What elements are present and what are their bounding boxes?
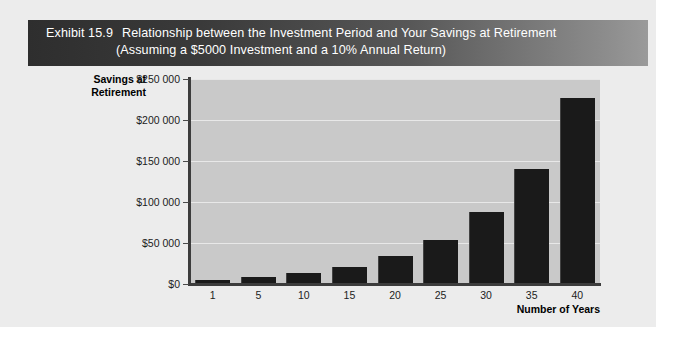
y-axis-tick-label: $0 xyxy=(94,278,180,290)
plot-area xyxy=(190,79,600,284)
y-axis-tick-mark xyxy=(183,120,189,121)
x-axis-tick-label: 10 xyxy=(298,289,310,301)
bar xyxy=(332,267,367,284)
y-axis-tick-mark xyxy=(183,243,189,244)
gridline xyxy=(190,79,600,80)
bar xyxy=(423,240,458,284)
bar xyxy=(514,169,549,284)
exhibit-page: Exhibit 15.9Relationship between the Inv… xyxy=(0,0,673,348)
y-axis-tick-label: $250 000 xyxy=(94,73,180,85)
y-axis-tick-label: $200 000 xyxy=(94,114,180,126)
y-axis-tick-mark xyxy=(183,161,189,162)
gridline xyxy=(190,161,600,162)
x-axis-line xyxy=(188,283,601,286)
y-axis-tick-label: $100 000 xyxy=(94,196,180,208)
y-axis-line xyxy=(188,77,191,286)
x-axis-tick-label: 20 xyxy=(389,289,401,301)
x-axis-tick-label: 15 xyxy=(344,289,356,301)
gridline xyxy=(190,120,600,121)
bar xyxy=(378,256,413,284)
bar xyxy=(469,212,504,284)
y-axis-tick-labels: $0$50 000$100 000$150 000$200 000$250 00… xyxy=(94,0,180,327)
y-axis-tick-mark xyxy=(183,79,189,80)
x-axis-tick-label: 1 xyxy=(210,289,216,301)
x-axis-tick-label: 25 xyxy=(435,289,447,301)
x-axis-tick-label: 5 xyxy=(255,289,261,301)
y-axis-tick-label: $50 000 xyxy=(94,237,180,249)
x-axis-tick-label: 35 xyxy=(526,289,538,301)
x-axis-tick-label: 40 xyxy=(571,289,583,301)
bar-chart: Savings atRetirement $0$50 000$100 000$1… xyxy=(0,0,656,327)
y-axis-tick-mark xyxy=(183,202,189,203)
y-axis-tick-mark xyxy=(183,284,189,285)
x-axis-title: Number of Years xyxy=(400,303,600,315)
x-axis-tick-label: 30 xyxy=(480,289,492,301)
y-axis-tick-label: $150 000 xyxy=(94,155,180,167)
bar xyxy=(560,98,595,284)
